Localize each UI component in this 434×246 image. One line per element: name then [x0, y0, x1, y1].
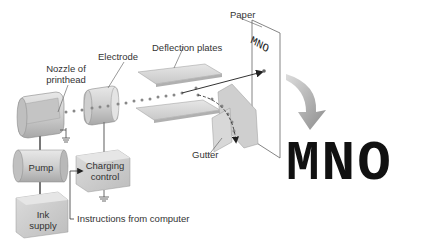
printed-output-text: MNO	[286, 134, 393, 194]
deflection-plate-top	[138, 64, 222, 87]
nozzle-of-printhead	[17, 92, 64, 138]
label-nozzle-line2: printhead	[46, 74, 86, 85]
label-nozzle-line1: Nozzle of	[46, 63, 86, 74]
label-charging-line1: Charging	[84, 160, 126, 171]
label-electrode: Electrode	[98, 51, 138, 62]
label-ink-line2: supply	[20, 220, 66, 231]
electrode	[84, 86, 119, 125]
label-gutter: Gutter	[192, 149, 218, 160]
deflection-plate-bottom	[136, 100, 220, 123]
droplet-on-paper	[262, 69, 266, 73]
label-ink-supply: Ink supply	[20, 209, 66, 231]
label-paper: Paper	[230, 9, 255, 20]
label-charging-control: Charging control	[84, 160, 126, 182]
inkjet-diagram: Paper Electrode Deflection plates Nozzle…	[0, 0, 434, 246]
electrode-leader-line	[108, 62, 124, 88]
label-pump: Pump	[20, 162, 62, 173]
output-arrow	[286, 74, 326, 130]
label-charging-line2: control	[84, 171, 126, 182]
label-nozzle: Nozzle of printhead	[46, 63, 86, 85]
ground-symbol-nozzle	[60, 128, 70, 142]
ground-symbol-charging	[99, 190, 109, 201]
label-ink-line1: Ink	[20, 209, 66, 220]
label-deflection-plates: Deflection plates	[152, 42, 222, 53]
label-instructions: Instructions from computer	[77, 213, 189, 224]
